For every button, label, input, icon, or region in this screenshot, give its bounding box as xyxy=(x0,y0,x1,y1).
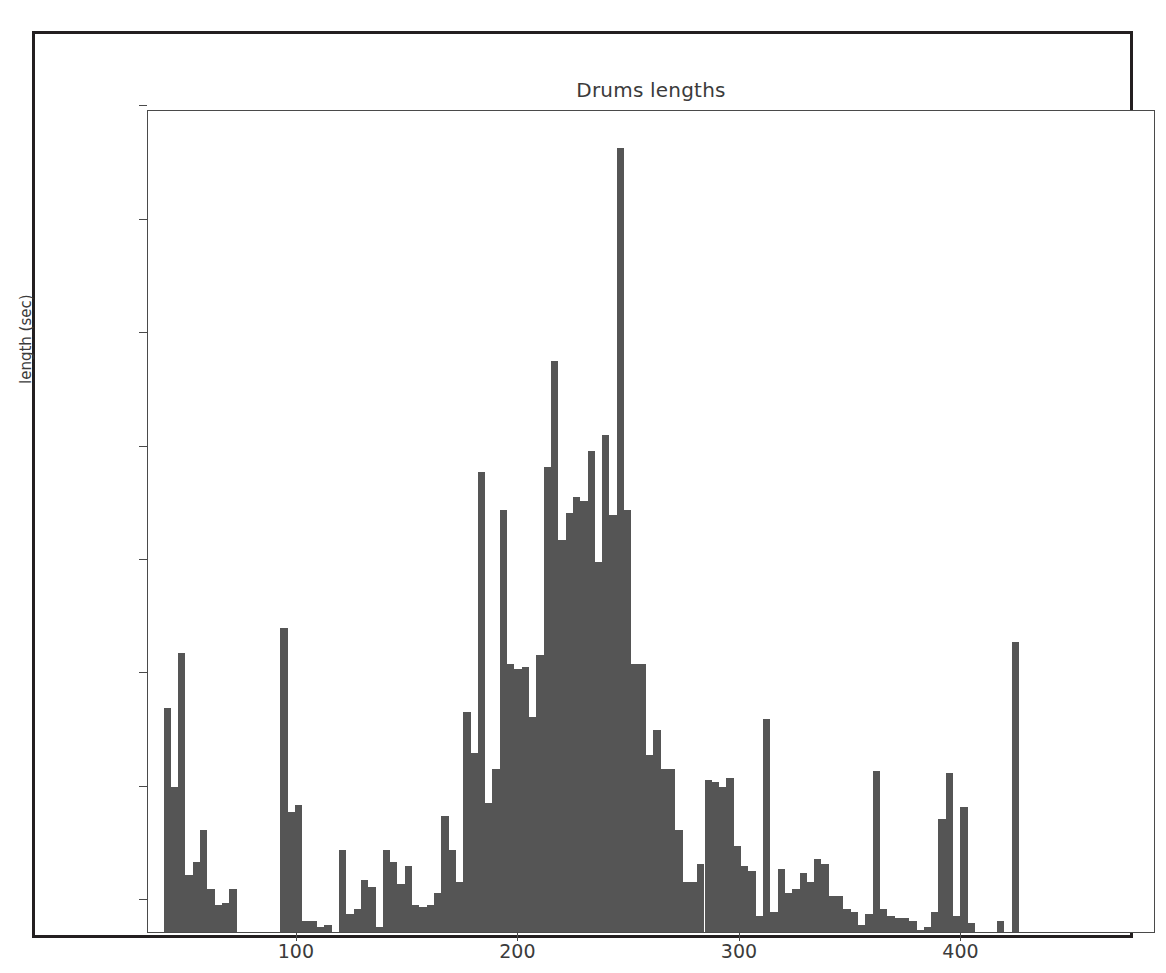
histogram-bar xyxy=(485,803,492,932)
histogram-bar xyxy=(588,451,595,932)
histogram-bar xyxy=(339,850,346,932)
histogram-bar xyxy=(814,859,821,932)
histogram-bar xyxy=(185,875,192,932)
y-axis-tick-mark xyxy=(139,219,147,220)
histogram-bar xyxy=(865,914,872,932)
histogram-bar xyxy=(573,497,580,932)
histogram-bar xyxy=(361,880,368,932)
histogram-bar xyxy=(324,925,331,932)
histogram-bar xyxy=(917,930,924,932)
histogram-bar xyxy=(946,773,953,932)
histogram-bar xyxy=(405,866,412,932)
histogram-bar xyxy=(617,148,624,932)
histogram-bar xyxy=(280,628,287,932)
histogram-bar xyxy=(229,889,236,932)
x-axis-tick-mark xyxy=(517,933,518,941)
x-axis-tick-mark xyxy=(960,933,961,941)
histogram-bar xyxy=(756,916,763,932)
histogram-bar xyxy=(909,921,916,932)
histogram-bar xyxy=(624,510,631,932)
histogram-bar xyxy=(902,918,909,932)
histogram-bar xyxy=(207,889,214,932)
histogram-bar xyxy=(821,864,828,932)
histogram-bar xyxy=(478,472,485,932)
histogram-bar xyxy=(536,655,543,932)
histogram-bar xyxy=(880,909,887,932)
histogram-bar xyxy=(529,717,536,932)
histogram-bar xyxy=(785,893,792,932)
histogram-bar xyxy=(924,927,931,932)
figure-page: Drums lengths length (sec) 0501001502002… xyxy=(0,0,1166,973)
histogram-bar xyxy=(471,753,478,932)
histogram-bar xyxy=(741,866,748,932)
histogram-bar xyxy=(427,905,434,932)
histogram-bar xyxy=(200,830,207,932)
y-axis-tick-mark xyxy=(139,786,147,787)
histogram-bar xyxy=(1012,642,1019,932)
histogram-bar xyxy=(690,882,697,932)
histogram-bar xyxy=(434,893,441,932)
x-axis-tick-mark xyxy=(296,933,297,941)
histogram-bar xyxy=(522,667,529,932)
histogram-bar xyxy=(778,869,785,932)
histogram-bar xyxy=(639,664,646,932)
histogram-bar xyxy=(492,769,499,932)
histogram-bar xyxy=(449,850,456,932)
histogram-bar xyxy=(222,903,229,932)
histogram-bar xyxy=(310,921,317,932)
histogram-bar xyxy=(295,805,302,932)
y-axis-label: length (sec) xyxy=(17,294,35,384)
plot-area xyxy=(147,110,1155,933)
histogram-bar xyxy=(171,787,178,932)
y-axis-tick-mark xyxy=(139,446,147,447)
histogram-bar xyxy=(968,923,975,932)
histogram-bar xyxy=(412,905,419,932)
histogram-bar xyxy=(500,510,507,932)
histogram-bar xyxy=(712,782,719,932)
histogram-bar xyxy=(836,896,843,932)
histogram-bar xyxy=(354,909,361,932)
histogram-bar xyxy=(368,887,375,932)
histogram-bar xyxy=(829,896,836,932)
histogram-bar xyxy=(843,909,850,932)
histogram-bar xyxy=(456,882,463,932)
histogram-bar xyxy=(609,515,616,932)
histogram-bars xyxy=(148,111,1154,932)
histogram-bar xyxy=(551,361,558,932)
histogram-bar xyxy=(683,882,690,932)
x-axis-tick-label: 400 xyxy=(942,940,978,962)
histogram-bar xyxy=(697,864,704,932)
y-axis-tick-mark xyxy=(139,559,147,560)
y-axis-tick-mark xyxy=(139,105,147,106)
histogram-bar xyxy=(383,850,390,932)
histogram-bar xyxy=(397,884,404,932)
histogram-bar xyxy=(164,708,171,932)
histogram-bar xyxy=(726,778,733,932)
histogram-bar xyxy=(931,912,938,932)
histogram-bar xyxy=(595,562,602,932)
x-axis-tick-mark xyxy=(739,933,740,941)
histogram-bar xyxy=(441,816,448,932)
histogram-bar xyxy=(748,871,755,932)
histogram-bar xyxy=(390,862,397,932)
histogram-bar xyxy=(602,435,609,932)
histogram-bar xyxy=(215,905,222,932)
histogram-bar xyxy=(858,925,865,932)
histogram-bar xyxy=(566,513,573,932)
histogram-bar xyxy=(851,912,858,932)
histogram-bar xyxy=(800,873,807,932)
histogram-bar xyxy=(302,921,309,932)
histogram-bar xyxy=(419,907,426,932)
histogram-bar xyxy=(544,467,551,932)
histogram-bar xyxy=(873,771,880,932)
histogram-bar xyxy=(376,927,383,932)
figure-outer-border: Drums lengths length (sec) 0501001502002… xyxy=(32,31,1133,938)
histogram-bar xyxy=(507,664,514,932)
histogram-bar xyxy=(953,916,960,932)
x-axis-tick-label: 300 xyxy=(721,940,757,962)
y-axis-tick-mark xyxy=(139,899,147,900)
histogram-bar xyxy=(178,653,185,932)
histogram-bar xyxy=(719,787,726,932)
y-axis-tick-mark xyxy=(139,332,147,333)
histogram-bar xyxy=(734,846,741,932)
